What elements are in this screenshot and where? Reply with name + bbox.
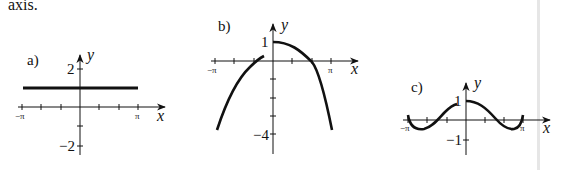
figure-b-curve-left [217, 56, 264, 130]
figure-c-label: c) [411, 79, 423, 96]
figure-b-y-tick-neg4: −4 [253, 127, 269, 143]
figure-a-neg-pi: −π [15, 111, 25, 121]
figure-b-y-tick-1: 1 [261, 34, 269, 50]
figure-c-curve-right [466, 101, 523, 129]
figure-b-y-label: y [279, 16, 289, 34]
figure-a-x-label: x [156, 107, 164, 124]
figure-c-y-tick-neg1: −1 [446, 132, 462, 148]
figure-c: c) −π π 1 −1 y x [400, 74, 550, 155]
figure-a-y-tick-2: 2 [67, 61, 75, 77]
figure-a-y-label: y [85, 46, 95, 64]
figure-a: a) −π π 2 −2 y x [15, 46, 165, 155]
figure-c-y-label: y [472, 74, 482, 92]
figure-c-neg-pi: −π [400, 123, 410, 133]
figure-b-label: b) [218, 18, 231, 35]
figure-c-y-tick-1: 1 [454, 93, 462, 109]
figure-a-pi: π [135, 111, 140, 121]
figure-b-pi: π [328, 65, 333, 75]
figure-c-x-label: x [542, 119, 550, 136]
figure-b-curve-right [273, 42, 332, 130]
figure-b: b) −π π 1 −4 y x [207, 16, 358, 154]
figure-b-neg-pi: −π [207, 65, 217, 75]
figure-c-curve-left [408, 104, 457, 129]
figure-b-x-label: x [350, 60, 358, 77]
figure-a-label: a) [27, 52, 39, 69]
figure-a-y-tick-neg2: −2 [59, 138, 75, 154]
figures-canvas: a) −π π 2 −2 y x b) [0, 0, 568, 170]
